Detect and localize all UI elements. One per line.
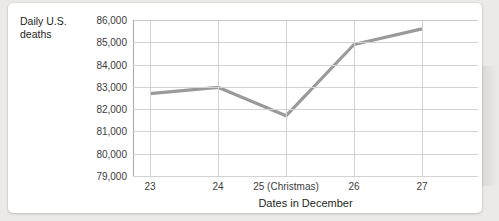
line-chart: Daily U.S. deaths 86,00085,00084,00083,0… bbox=[0, 0, 499, 221]
gridline-vertical bbox=[354, 20, 355, 176]
gridline-vertical bbox=[150, 20, 151, 176]
y-axis-tick-label: 82,000 bbox=[73, 104, 127, 115]
x-axis-tick-label: 25 (Christmas) bbox=[253, 181, 319, 192]
gridline-vertical bbox=[218, 20, 219, 176]
y-axis-tick-label: 84,000 bbox=[73, 59, 127, 70]
x-axis-tick-label: 26 bbox=[348, 181, 359, 192]
gridline-vertical bbox=[422, 20, 423, 176]
y-axis-tick-labels: 86,00085,00084,00083,00082,00081,00080,0… bbox=[73, 20, 127, 177]
gridline-horizontal bbox=[133, 42, 478, 43]
gridline-vertical bbox=[286, 20, 287, 176]
screenshot-root: Daily U.S. deaths 86,00085,00084,00083,0… bbox=[0, 0, 499, 221]
y-axis-tick-label: 80,000 bbox=[73, 148, 127, 159]
x-axis-tick-label: 23 bbox=[144, 181, 155, 192]
gridline-horizontal bbox=[133, 65, 478, 66]
y-axis-tick-label: 83,000 bbox=[73, 81, 127, 92]
y-axis-tick-label: 79,000 bbox=[73, 171, 127, 182]
gridline-horizontal bbox=[133, 131, 478, 132]
plot-area bbox=[133, 20, 478, 177]
gridline-horizontal bbox=[133, 87, 478, 88]
y-axis-tick-label: 85,000 bbox=[73, 37, 127, 48]
x-axis-title: Dates in December bbox=[133, 197, 478, 209]
y-axis-tick-label: 81,000 bbox=[73, 126, 127, 137]
gridline-horizontal bbox=[133, 154, 478, 155]
x-axis-tick-label: 24 bbox=[212, 181, 223, 192]
gridline-horizontal bbox=[133, 109, 478, 110]
gridline-horizontal bbox=[133, 176, 478, 177]
x-axis-tick-label: 27 bbox=[416, 181, 427, 192]
y-axis-tick-label: 86,000 bbox=[73, 15, 127, 26]
